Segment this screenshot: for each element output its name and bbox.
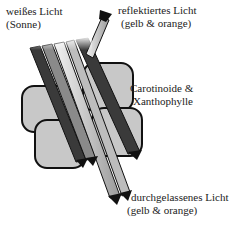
label-incoming-light: weißes Licht (Sonne) <box>6 5 63 31</box>
label-line: (gelb & orange) <box>127 204 228 217</box>
label-line: Xanthophylle <box>130 95 193 108</box>
label-line: Carotinoide & <box>130 82 193 95</box>
label-transmitted-light: durchgelassenes Licht (gelb & orange) <box>127 191 228 217</box>
label-line: weißes Licht <box>6 5 63 18</box>
label-pigments: Carotinoide & Xanthophylle <box>130 82 193 108</box>
diagram-canvas: weißes Licht (Sonne) reflektiertes Licht… <box>0 0 237 227</box>
reflected-arrow <box>86 10 112 58</box>
label-line: (Sonne) <box>6 18 63 31</box>
label-line: durchgelassenes Licht <box>127 191 228 204</box>
ray-fade <box>26 36 92 50</box>
label-line: reflektiertes Licht <box>118 4 197 17</box>
label-reflected-light: reflektiertes Licht (gelb & orange) <box>118 4 197 30</box>
label-line: (gelb & orange) <box>118 17 197 30</box>
